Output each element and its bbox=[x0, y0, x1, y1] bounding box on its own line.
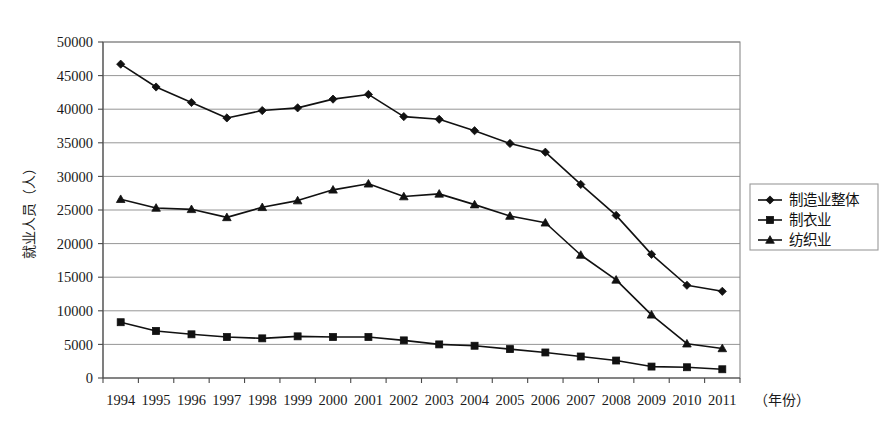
y-tick-label: 20000 bbox=[57, 236, 93, 252]
marker-square bbox=[365, 334, 372, 341]
y-tick-label: 10000 bbox=[57, 303, 93, 319]
x-tick-label: 1999 bbox=[283, 392, 312, 408]
x-tick-label: 2008 bbox=[602, 392, 631, 408]
marker-square bbox=[259, 335, 266, 342]
y-tick-label: 45000 bbox=[57, 68, 93, 84]
x-tick-label: 2006 bbox=[531, 392, 560, 408]
marker-square bbox=[506, 346, 513, 353]
marker-diamond bbox=[294, 104, 302, 112]
y-tick-label: 30000 bbox=[57, 169, 93, 185]
x-tick-label: 2004 bbox=[460, 392, 490, 408]
marker-square bbox=[117, 319, 124, 326]
x-tick-label: 2009 bbox=[637, 392, 666, 408]
series-1 bbox=[117, 60, 727, 295]
marker-square bbox=[471, 342, 478, 349]
marker-square bbox=[683, 364, 690, 371]
x-tick-label: 1994 bbox=[106, 392, 136, 408]
marker-square bbox=[188, 331, 195, 338]
x-tick-label: 1996 bbox=[177, 392, 206, 408]
marker-diamond bbox=[400, 112, 408, 120]
marker-square bbox=[613, 357, 620, 364]
y-tick-label: 5000 bbox=[64, 337, 93, 353]
marker-square bbox=[294, 333, 301, 340]
legend-label: 制造业整体 bbox=[789, 192, 860, 208]
series-line bbox=[121, 322, 723, 369]
legend-label: 纺织业 bbox=[789, 232, 831, 248]
marker-triangle bbox=[116, 195, 125, 203]
marker-diamond bbox=[258, 106, 266, 114]
marker-triangle bbox=[364, 179, 373, 187]
employment-line-chart: 5000045000400003500030000250002000015000… bbox=[0, 0, 893, 434]
x-axis-title: （年份） bbox=[754, 392, 810, 408]
marker-square bbox=[542, 349, 549, 356]
x-axis-ticks bbox=[103, 378, 740, 383]
x-tick-label: 2000 bbox=[319, 392, 348, 408]
y-tick-label: 40000 bbox=[57, 101, 93, 117]
series-line bbox=[121, 184, 723, 349]
marker-square bbox=[153, 327, 160, 334]
y-tick-label: 0 bbox=[86, 370, 93, 386]
chart-figure: 5000045000400003500030000250002000015000… bbox=[0, 0, 893, 434]
marker-diamond bbox=[718, 287, 726, 295]
marker-square bbox=[767, 217, 774, 224]
series-line bbox=[121, 64, 723, 291]
marker-diamond bbox=[506, 139, 514, 147]
series-3 bbox=[116, 179, 726, 351]
x-tick-label: 1997 bbox=[212, 392, 241, 408]
marker-square bbox=[223, 334, 230, 341]
x-tick-label: 2003 bbox=[425, 392, 454, 408]
x-tick-label: 2010 bbox=[672, 392, 701, 408]
x-tick-label: 2011 bbox=[708, 392, 736, 408]
x-tick-label: 2007 bbox=[566, 392, 595, 408]
marker-square bbox=[719, 366, 726, 373]
marker-diamond bbox=[470, 127, 478, 135]
chart-legend: 制造业整体制衣业纺织业 bbox=[750, 184, 878, 250]
x-tick-label: 2001 bbox=[354, 392, 383, 408]
marker-square bbox=[648, 363, 655, 370]
y-tick-label: 50000 bbox=[57, 34, 93, 50]
y-axis-tick-labels: 5000045000400003500030000250002000015000… bbox=[57, 34, 93, 386]
y-axis-title: 就业人员（人） bbox=[21, 161, 37, 259]
marker-square bbox=[400, 337, 407, 344]
y-tick-label: 35000 bbox=[57, 135, 93, 151]
x-tick-label: 1995 bbox=[142, 392, 171, 408]
x-tick-label: 1998 bbox=[248, 392, 277, 408]
marker-square bbox=[577, 353, 584, 360]
marker-triangle bbox=[612, 276, 621, 284]
y-axis-ticks bbox=[98, 42, 103, 378]
marker-diamond bbox=[329, 95, 337, 103]
x-tick-label: 2002 bbox=[389, 392, 418, 408]
x-tick-label: 2005 bbox=[495, 392, 524, 408]
marker-diamond bbox=[187, 98, 195, 106]
marker-diamond bbox=[435, 115, 443, 123]
marker-diamond bbox=[117, 60, 125, 68]
gridlines bbox=[103, 42, 740, 344]
marker-diamond bbox=[364, 90, 372, 98]
y-tick-label: 25000 bbox=[57, 202, 93, 218]
legend-label: 制衣业 bbox=[789, 212, 831, 228]
data-series bbox=[116, 60, 726, 373]
marker-diamond bbox=[152, 83, 160, 91]
axis-titles: 就业人员（人）（年份） bbox=[21, 161, 810, 408]
marker-square bbox=[330, 334, 337, 341]
marker-square bbox=[436, 341, 443, 348]
y-tick-label: 15000 bbox=[57, 269, 93, 285]
series-2 bbox=[117, 319, 726, 373]
x-axis-tick-labels: 1994199519961997199819992000200120022003… bbox=[106, 392, 736, 408]
marker-diamond bbox=[223, 114, 231, 122]
